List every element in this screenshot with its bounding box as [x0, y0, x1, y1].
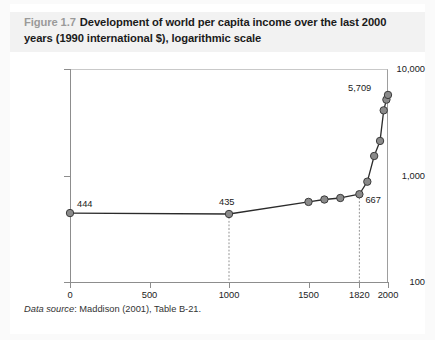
data-point: [66, 209, 73, 216]
data-point-label: 435: [219, 197, 235, 207]
data-point: [321, 196, 328, 203]
figure-sheet: Figure 1.7Development of world per capit…: [10, 4, 425, 334]
data-point: [376, 137, 383, 144]
data-point: [356, 191, 363, 198]
data-point-label: 5,709: [348, 83, 371, 93]
data-point-label: 444: [77, 199, 93, 209]
guide-lines-group: [229, 194, 359, 282]
data-point: [305, 198, 312, 205]
data-point: [337, 194, 344, 201]
data-point: [384, 91, 391, 98]
series-plot: [10, 4, 425, 334]
source-note-text: : Maddison (2001), Table B-21.: [74, 304, 201, 314]
source-note-label: Data source: [24, 304, 74, 314]
data-point: [380, 107, 387, 114]
data-point: [370, 152, 377, 159]
data-point-label: 667: [365, 195, 381, 205]
page-background: Figure 1.7Development of world per capit…: [0, 0, 435, 340]
source-note: Data source: Maddison (2001), Table B-21…: [24, 304, 201, 314]
data-point: [225, 210, 232, 217]
data-point: [364, 178, 371, 185]
